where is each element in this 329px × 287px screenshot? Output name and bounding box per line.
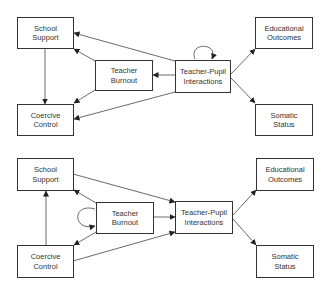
top-coercive-control-node: Coercive Control <box>17 104 74 136</box>
node-label: School Support <box>32 24 58 43</box>
edge-burnout-to-coercive <box>74 232 96 245</box>
edge-tp-to-coercive <box>74 92 175 119</box>
bottom-coercive-control-node: Coercive Control <box>17 245 74 278</box>
node-label: Teacher Burnout <box>112 209 139 228</box>
edge-burnout-to-coercive <box>74 90 95 103</box>
bottom-educational-outcomes-node: Educational Outcomes <box>256 158 314 191</box>
bottom-school-support-node: School Support <box>17 158 74 191</box>
bottom-teacher-pupil-node: Teacher-Pupil Interactions <box>175 201 233 234</box>
edge-tp-to-educ <box>233 190 256 215</box>
bottom-teacher-burnout-node: Teacher Burnout <box>96 202 154 234</box>
node-label: Teacher Burnout <box>111 66 138 85</box>
bottom-somatic-status-node: Somatic Status <box>256 245 314 278</box>
top-somatic-status-node: Somatic Status <box>255 104 313 136</box>
node-label: Coercive Control <box>31 252 61 271</box>
edge-burnout-to-school <box>74 49 95 61</box>
node-label: Coercive Control <box>31 111 61 130</box>
node-label: Somatic Status <box>271 252 298 271</box>
node-label: Somatic Status <box>270 111 297 130</box>
top-educational-outcomes-node: Educational Outcomes <box>255 17 313 49</box>
edge-tp-to-somatic <box>233 219 256 245</box>
edge-school-to-tp <box>73 174 175 202</box>
edge-tp-to-educ <box>231 49 255 74</box>
top-teacher-pupil-node: Teacher-Pupil Interactions <box>175 60 231 93</box>
node-label: Educational Outcomes <box>264 24 303 43</box>
node-label: Teacher-Pupil Interactions <box>180 67 226 86</box>
edge-tp-to-somatic <box>231 78 255 103</box>
top-school-support-node: School Support <box>17 17 74 49</box>
self-loop-teacher-burnout <box>78 208 95 227</box>
node-label: Educational Outcomes <box>265 165 304 184</box>
edge-burnout-to-school <box>74 190 96 203</box>
top-teacher-burnout-node: Teacher Burnout <box>95 60 153 91</box>
edge-tp-to-school <box>74 33 175 61</box>
node-label: School Support <box>32 165 58 184</box>
self-loop-teacher-pupil <box>194 46 213 59</box>
node-label: Teacher-Pupil Interactions <box>181 208 227 227</box>
